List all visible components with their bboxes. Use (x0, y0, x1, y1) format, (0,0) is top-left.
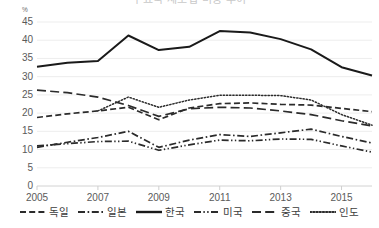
legend-item-한국[interactable]: 한국 (136, 206, 185, 218)
manufacturing-share-line-chart: 주요국 제조업 비중 추이 % 454035302520151050 20052… (0, 0, 379, 228)
legend-item-독일[interactable]: 독일 (20, 206, 69, 218)
legend-swatch-미국-icon (194, 207, 220, 217)
legend-item-일본[interactable]: 일본 (78, 206, 127, 218)
legend-label-중국: 중국 (281, 206, 301, 218)
legend-label-일본: 일본 (107, 206, 127, 218)
legend-item-인도[interactable]: 인도 (310, 206, 359, 218)
chart-legend: 독일일본한국미국중국인도 (0, 206, 379, 218)
legend-swatch-한국-icon (136, 207, 162, 217)
legend-label-한국: 한국 (165, 206, 185, 218)
legend-swatch-인도-icon (310, 207, 336, 217)
series-lines (37, 31, 372, 152)
legend-label-인도: 인도 (339, 206, 359, 218)
series-line-미국 (37, 139, 372, 152)
series-line-중국 (37, 90, 372, 126)
legend-swatch-독일-icon (20, 207, 46, 217)
axis-tick-marks (37, 186, 342, 190)
legend-label-미국: 미국 (223, 206, 243, 218)
legend-swatch-일본-icon (78, 207, 104, 217)
series-line-일본 (37, 129, 372, 147)
legend-item-중국[interactable]: 중국 (252, 206, 301, 218)
series-line-한국 (37, 31, 372, 75)
plot-area (0, 0, 379, 228)
legend-label-독일: 독일 (49, 206, 69, 218)
series-line-인도 (98, 95, 372, 125)
gridlines (37, 22, 372, 186)
legend-swatch-중국-icon (252, 207, 278, 217)
legend-item-미국[interactable]: 미국 (194, 206, 243, 218)
